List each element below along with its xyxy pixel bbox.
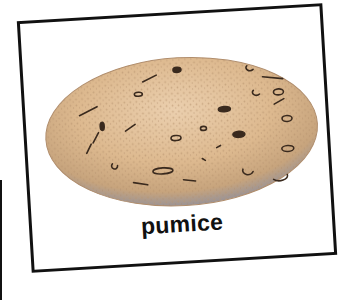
adjacent-card-edge (0, 180, 2, 300)
pumice-card: pumice (17, 3, 337, 273)
pumice-stone-illustration (36, 41, 327, 217)
